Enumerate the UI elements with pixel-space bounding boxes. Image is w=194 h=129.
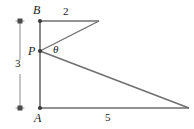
vertex-dot-A	[38, 106, 42, 110]
measure-bar-bottom-marker	[18, 106, 23, 111]
vertex-label-a: A	[34, 112, 41, 124]
length-label-bottom: 5	[105, 112, 111, 123]
segment-P-topright	[40, 21, 99, 51]
length-label-left: 3	[15, 58, 21, 69]
angle-label-theta: θ	[53, 44, 58, 55]
measure-bar-top-marker	[18, 19, 23, 24]
vertex-label-b: B	[33, 4, 40, 16]
vertex-dot-B	[38, 19, 42, 23]
vertex-dot-P	[38, 49, 42, 53]
length-label-top: 2	[63, 6, 69, 17]
geometry-figure: B P A 2 5 3 θ	[0, 0, 194, 129]
figure-canvas	[0, 0, 194, 129]
vertex-label-p: P	[28, 45, 35, 57]
segment-P-bottomright	[40, 51, 189, 108]
